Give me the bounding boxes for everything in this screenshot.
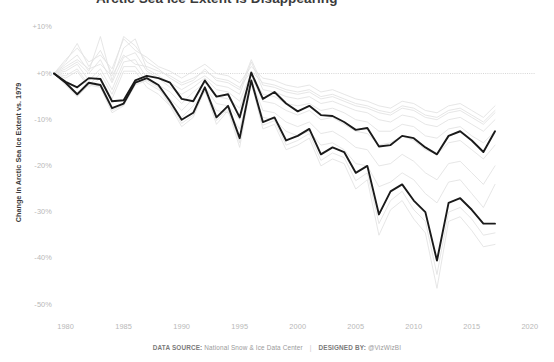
y-axis-tick-label: -40% <box>22 253 52 262</box>
chart-canvas: Arctic Sea Ice Extent Is Disappearing Ch… <box>0 0 554 362</box>
x-axis-tick-label: 1985 <box>104 322 144 331</box>
y-axis-tick-label: -20% <box>22 161 52 170</box>
y-axis-tick-label: +0% <box>22 69 52 78</box>
designer-label: DESIGNED BY: <box>318 344 366 351</box>
footer-separator: | <box>305 344 317 351</box>
data-source-label: DATA SOURCE: <box>153 344 203 351</box>
series-line <box>54 74 495 261</box>
y-axis-tick-label: -50% <box>22 300 52 309</box>
line-chart-svg <box>0 0 554 362</box>
x-axis-tick-label: 2010 <box>394 322 434 331</box>
series-line <box>54 67 495 185</box>
y-axis-tick-label: -10% <box>22 115 52 124</box>
footer-credits: DATA SOURCE: National Snow & Ice Data Ce… <box>0 344 554 351</box>
y-axis-tick-label: +10% <box>22 22 52 31</box>
x-axis-tick-label: 2015 <box>452 322 492 331</box>
x-axis-tick-label: 2020 <box>510 322 550 331</box>
y-axis-tick-label: -30% <box>22 207 52 216</box>
designer-value: @VizWizBI <box>368 344 401 351</box>
x-axis-tick-label: 2000 <box>278 322 318 331</box>
plot-area <box>0 0 554 362</box>
x-axis-tick-label: 2005 <box>336 322 376 331</box>
x-axis-tick-label: 1995 <box>220 322 260 331</box>
x-axis-tick-label: 1990 <box>162 322 202 331</box>
series-line <box>54 53 495 143</box>
x-axis-tick-label: 1980 <box>46 322 86 331</box>
data-source-value: National Snow & Ice Data Center <box>204 344 302 351</box>
